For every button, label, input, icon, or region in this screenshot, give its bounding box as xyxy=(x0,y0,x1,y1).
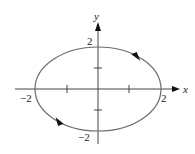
y-axis-arrow-icon xyxy=(95,22,101,31)
x-tick-label-pos2: 2 xyxy=(161,92,167,104)
direction-arrow-upper-icon xyxy=(130,51,141,61)
y-axis-label: y xyxy=(93,10,99,22)
y-tick-label-neg2: −2 xyxy=(78,131,90,143)
x-axis-label: x xyxy=(182,83,188,95)
y-tick-label-pos2: 2 xyxy=(87,35,93,47)
ellipse-diagram: x y 2 −2 −2 2 xyxy=(0,0,195,154)
x-axis-arrow-icon xyxy=(172,86,180,92)
direction-arrow-lower-icon xyxy=(54,117,64,126)
x-tick-label-neg2: −2 xyxy=(20,92,32,104)
